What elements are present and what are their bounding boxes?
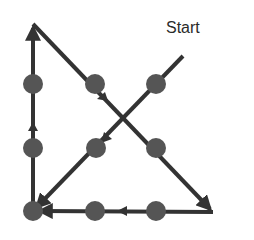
dot-r1-c2	[85, 74, 105, 94]
dot-r2-c1	[23, 138, 43, 158]
dot-r3-c3	[146, 201, 166, 221]
dot-r3-c2	[85, 201, 105, 221]
arrow-up-icon	[28, 122, 38, 131]
arrow-left-icon	[117, 206, 127, 216]
dot-r1-c1	[23, 74, 43, 94]
dot-r1-c3	[146, 74, 166, 94]
dot-r2-c3	[146, 138, 166, 158]
dot-r3-c1	[23, 201, 43, 221]
nine-dots-diagram	[0, 0, 254, 240]
dot-r2-c2	[86, 138, 106, 158]
